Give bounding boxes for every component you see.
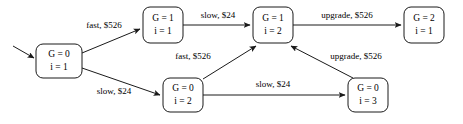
node-label-g1i1-line2: i = 1 [154,26,172,36]
node-g0i2[interactable]: G = 0 i = 2 [163,78,203,112]
edge-label-upgrade-526-right: upgrade, $526 [330,51,382,61]
node-label-start-g0i1-line2: i = 1 [50,62,68,72]
node-label-g0i2-line2: i = 2 [174,96,192,106]
node-g1i1[interactable]: G = 1 i = 1 [143,7,183,43]
edge-g0i2-to-g0i3: slow, $24 [203,79,345,95]
edge-start-to-g1i1: fast, $526 [82,20,140,53]
edge-g0i2-to-g1i2: fast, $526 [175,46,256,79]
state-diagram: fast, $526 slow, $24 upgrade, $526 slow,… [0,0,463,124]
edge-label-slow-24-lower-left: slow, $24 [97,86,132,96]
edge-label-fast-526-upper: fast, $526 [86,20,122,30]
edge-g1i1-to-g1i2: slow, $24 [183,10,250,25]
node-label-g1i1-line1: G = 1 [152,13,174,23]
node-label-g0i3-line1: G = 0 [357,83,379,93]
edge-label-fast-526-middle: fast, $526 [175,51,211,61]
node-label-g2i1-line1: G = 2 [413,13,435,23]
edge-label-upgrade-526-top: upgrade, $526 [321,10,373,20]
node-start-g0i1[interactable]: G = 0 i = 1 [36,44,82,78]
state-diagram-canvas: fast, $526 slow, $24 upgrade, $526 slow,… [0,0,463,124]
edge-start-to-g0i2: slow, $24 [82,68,160,96]
edge-entry-arrow [13,46,34,58]
node-label-start-g0i1-line1: G = 0 [48,49,70,59]
node-label-g1i2-line1: G = 1 [262,13,284,23]
edge-g1i2-to-g2i1: upgrade, $526 [293,10,401,25]
node-label-g1i2-line2: i = 2 [264,26,282,36]
node-g2i1[interactable]: G = 2 i = 1 [404,7,444,43]
node-label-g0i2-line1: G = 0 [172,83,194,93]
node-label-g0i3-line2: i = 3 [359,96,377,106]
edge-g0i3-to-g1i2: upgrade, $526 [291,46,382,78]
node-label-g2i1-line2: i = 1 [415,26,433,36]
edge-label-slow-24-top: slow, $24 [201,10,236,20]
node-g0i3[interactable]: G = 0 i = 3 [348,78,388,112]
edge-label-slow-24-bottom: slow, $24 [256,79,291,89]
node-g1i2[interactable]: G = 1 i = 2 [253,7,293,43]
